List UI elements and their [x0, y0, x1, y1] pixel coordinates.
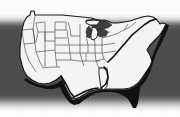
us-map: United States Map Grayscale outline map …	[0, 0, 180, 117]
map-graphic-canvas: United States Map Grayscale outline map …	[0, 0, 180, 117]
us-map-svg: United States Map Grayscale outline map …	[0, 0, 180, 117]
michigan-upper-peninsula	[86, 20, 100, 25]
